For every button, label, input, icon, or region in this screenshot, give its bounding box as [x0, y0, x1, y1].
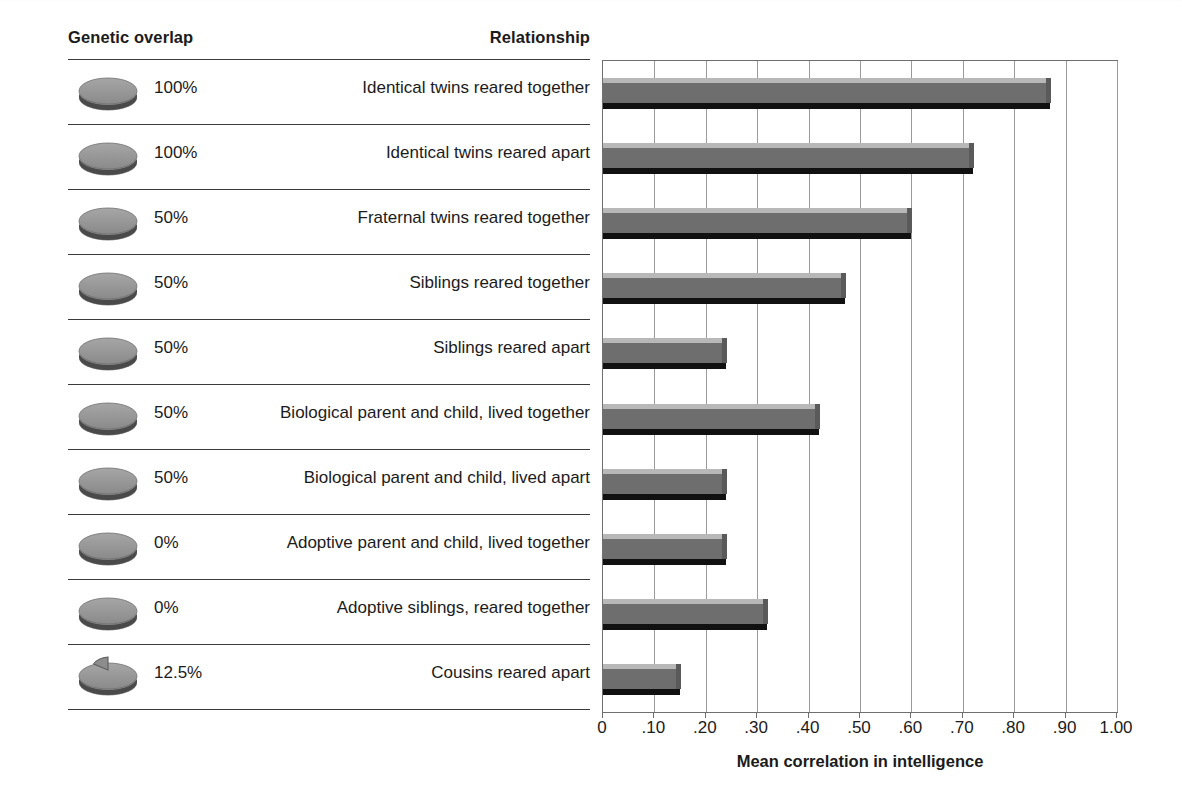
x-axis-tick-label: 1.00	[1099, 718, 1132, 738]
bar-end-cap	[722, 534, 727, 559]
x-axis-tick-label: .80	[1001, 718, 1025, 738]
bar-top-face	[603, 534, 726, 539]
table-row[interactable]: 12.5%Cousins reared apart	[68, 645, 590, 710]
disc-icon	[72, 523, 146, 571]
bar-shadow	[603, 103, 1050, 109]
bar	[603, 143, 973, 174]
x-axis-tick-label: .90	[1053, 718, 1077, 738]
bar-end-cap	[722, 469, 727, 494]
relationship-label: Fraternal twins reared together	[358, 208, 590, 228]
bar	[603, 534, 726, 565]
bar-top-face	[603, 599, 767, 604]
bar-body	[603, 474, 726, 494]
bar-end-cap	[907, 208, 912, 233]
bar-top-face	[603, 208, 911, 213]
bar	[603, 78, 1050, 109]
bar-body	[603, 539, 726, 559]
genetic-overlap-value: 50%	[154, 273, 188, 293]
relationship-label: Identical twins reared together	[362, 78, 590, 98]
bar-shadow	[603, 363, 726, 369]
bar	[603, 404, 819, 435]
x-axis-tick-label: .60	[899, 718, 923, 738]
bar	[603, 208, 911, 239]
bar-shadow	[603, 494, 726, 500]
bar-end-cap	[763, 599, 768, 624]
genetic-overlap-value: 50%	[154, 403, 188, 423]
bar-body	[603, 604, 767, 624]
table-row[interactable]: 50%Biological parent and child, lived to…	[68, 385, 590, 450]
disc-icon	[72, 393, 146, 441]
bar-body	[603, 83, 1050, 103]
relationship-label: Siblings reared apart	[433, 338, 590, 358]
bar-shadow	[603, 559, 726, 565]
disc-icon	[72, 263, 146, 311]
table-header-row: Genetic overlap Relationship	[68, 28, 590, 58]
x-axis-tick-label: .40	[796, 718, 820, 738]
genetic-overlap-value: 0%	[154, 598, 179, 618]
relationship-table: Genetic overlap Relationship 100%Identic…	[68, 28, 590, 58]
disc-icon	[72, 588, 146, 636]
bar	[603, 599, 767, 630]
x-axis-tick-label: .20	[693, 718, 717, 738]
table-row[interactable]: 50%Biological parent and child, lived ap…	[68, 450, 590, 515]
relationship-label: Siblings reared together	[409, 273, 590, 293]
bar-shadow	[603, 233, 911, 239]
bar-end-cap	[722, 338, 727, 363]
genetic-overlap-value: 50%	[154, 468, 188, 488]
bar	[603, 664, 680, 695]
row-divider	[68, 709, 590, 710]
genetic-overlap-value: 12.5%	[154, 663, 202, 683]
x-axis-title: Mean correlation in intelligence	[602, 752, 1118, 771]
disc-icon	[72, 68, 146, 116]
bar-shadow	[603, 624, 767, 630]
bar-end-cap	[815, 404, 820, 429]
table-row[interactable]: 0%Adoptive siblings, reared together	[68, 580, 590, 645]
x-axis-tick-label: .10	[642, 718, 666, 738]
table-row[interactable]: 50%Siblings reared together	[68, 255, 590, 320]
bar-body	[603, 669, 680, 689]
bar	[603, 338, 726, 369]
disc-icon	[72, 133, 146, 181]
bar-shadow	[603, 168, 973, 174]
bar-top-face	[603, 404, 819, 409]
chart-plot-area	[602, 60, 1118, 713]
gridline	[1117, 61, 1118, 712]
bar-shadow	[603, 298, 845, 304]
relationship-label: Cousins reared apart	[431, 663, 590, 683]
genetic-overlap-value: 100%	[154, 143, 197, 163]
genetic-overlap-value: 50%	[154, 208, 188, 228]
bar-shadow	[603, 689, 680, 695]
bar-top-face	[603, 338, 726, 343]
x-axis-tick-label: .70	[950, 718, 974, 738]
table-row[interactable]: 100%Identical twins reared apart	[68, 125, 590, 190]
disc-icon	[72, 458, 146, 506]
x-axis-tick-labels: 0.10.20.30.40.50.60.70.80.901.00	[602, 718, 1118, 744]
x-axis-tick-label: .50	[847, 718, 871, 738]
relationship-label: Identical twins reared apart	[386, 143, 590, 163]
bar-end-cap	[841, 273, 846, 298]
bar-top-face	[603, 664, 680, 669]
bar	[603, 469, 726, 500]
x-axis-tick-label: 0	[597, 718, 606, 738]
table-row[interactable]: 50%Siblings reared apart	[68, 320, 590, 385]
bar-top-face	[603, 273, 845, 278]
bar	[603, 273, 845, 304]
relationship-label: Biological parent and child, lived toget…	[280, 403, 590, 423]
bar-body	[603, 278, 845, 298]
table-row[interactable]: 0%Adoptive parent and child, lived toget…	[68, 515, 590, 580]
genetic-overlap-value: 0%	[154, 533, 179, 553]
table-row[interactable]: 50%Fraternal twins reared together	[68, 190, 590, 255]
gridline	[1014, 61, 1015, 712]
column-header-genetic-overlap: Genetic overlap	[68, 28, 193, 47]
bar-end-cap	[1046, 78, 1051, 103]
relationship-label: Adoptive siblings, reared together	[337, 598, 590, 618]
disc-icon	[72, 198, 146, 246]
bar-top-face	[603, 78, 1050, 83]
relationship-label: Adoptive parent and child, lived togethe…	[287, 533, 590, 553]
column-header-relationship: Relationship	[490, 28, 590, 47]
bar-top-face	[603, 469, 726, 474]
table-row[interactable]: 100%Identical twins reared together	[68, 60, 590, 125]
disc-icon	[72, 328, 146, 376]
bar-end-cap	[676, 664, 681, 689]
disc-icon	[72, 653, 146, 701]
